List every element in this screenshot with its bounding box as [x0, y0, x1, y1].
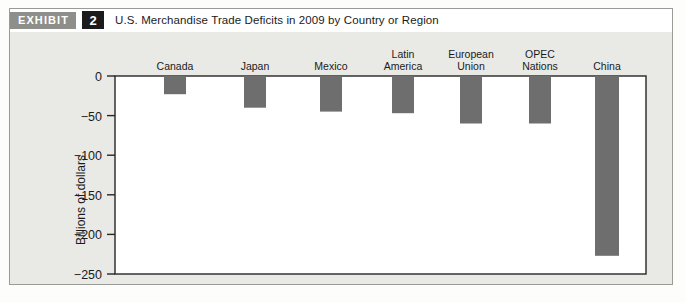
y-tick-label-2: −​100: [74, 149, 102, 163]
cat-label-latin-america-line2: America: [384, 60, 423, 72]
bar-mexico: [320, 76, 342, 112]
cat-label-european-union-line1: European: [448, 48, 494, 60]
y-tick-5: −​250: [74, 268, 115, 282]
bar-latin-america: [392, 76, 414, 113]
x-axis-labels: Canada Japan Mexico Latin America Europe…: [157, 48, 621, 72]
bar-chart: Billions of dollars 0 −​50 −​100: [10, 32, 672, 284]
y-tick-4: −​200: [74, 228, 115, 242]
cat-label-canada: Canada: [157, 60, 194, 72]
cat-label-japan: Japan: [241, 60, 270, 72]
y-tick-2: −​100: [74, 149, 115, 163]
y-tick-label-0: 0: [95, 70, 102, 84]
exhibit-tag-label: EXHIBIT: [10, 12, 76, 29]
y-tick-0: 0: [95, 70, 115, 84]
y-tick-label-3: −​150: [74, 189, 102, 203]
plot-frame: [115, 76, 646, 274]
bar-canada: [164, 76, 186, 94]
bar-opec-nations: [529, 76, 551, 124]
y-tick-label-4: −​200: [74, 228, 102, 242]
y-tick-label-1: −​50: [81, 110, 102, 124]
chart-panel: Billions of dollars 0 −​50 −​100: [10, 32, 672, 284]
y-tick-1: −​50: [81, 110, 115, 124]
y-tick-3: −​150: [74, 189, 115, 203]
cat-label-china: China: [593, 60, 621, 72]
exhibit-title: U.S. Merchandise Trade Deficits in 2009 …: [115, 14, 439, 26]
bar-european-union: [460, 76, 482, 124]
cat-label-opec-nations-line1: OPEC: [525, 48, 555, 60]
cat-label-latin-america-line1: Latin: [392, 48, 415, 60]
y-tick-label-5: −​250: [74, 268, 102, 282]
exhibit-number-badge: 2: [82, 11, 104, 29]
cat-label-european-union-line2: Union: [457, 60, 485, 72]
bar-japan: [244, 76, 266, 108]
cat-label-mexico: Mexico: [314, 60, 347, 72]
exhibit-header: EXHIBIT 2 U.S. Merchandise Trade Deficit…: [10, 9, 439, 31]
bar-china: [595, 76, 619, 256]
cat-label-opec-nations-line2: Nations: [522, 60, 558, 72]
exhibit-container: EXHIBIT 2 U.S. Merchandise Trade Deficit…: [0, 0, 686, 303]
